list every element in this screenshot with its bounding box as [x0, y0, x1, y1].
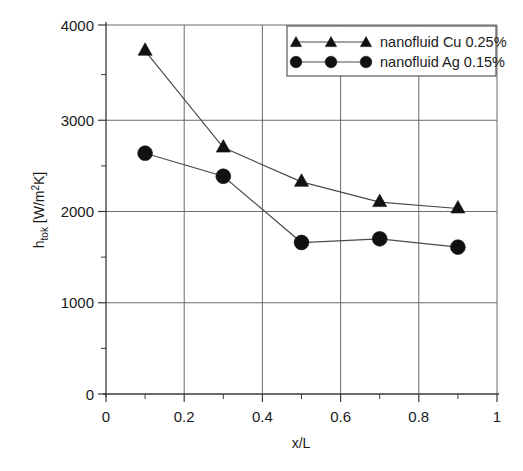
y-tick-label: 1000	[61, 294, 94, 311]
y-axis-major-ticks	[98, 25, 106, 394]
y-axis-tick-labels: 0 1000 2000 3000 4000	[61, 17, 94, 403]
y-axis-title-base: h	[31, 240, 47, 248]
x-tick-label: 1	[493, 408, 501, 425]
circle-marker-icon	[325, 56, 337, 68]
data-point-marker	[216, 169, 231, 184]
y-axis-unit-suffix: K]	[31, 172, 47, 185]
plot-background	[106, 25, 497, 394]
y-tick-label: 2000	[61, 203, 94, 220]
x-axis-tick-labels: 0 0.2 0.4 0.6 0.8 1	[102, 408, 501, 425]
data-point-marker	[138, 146, 153, 161]
x-tick-label: 0.6	[330, 408, 351, 425]
x-tick-label: 0	[102, 408, 110, 425]
y-axis-title-subscript: tok	[39, 226, 50, 240]
y-axis-title: htok [W/m2K]	[30, 172, 50, 248]
data-point-marker	[294, 235, 309, 250]
x-tick-label: 0.2	[174, 408, 195, 425]
y-tick-label: 4000	[61, 17, 94, 34]
x-tick-label: 0.4	[252, 408, 273, 425]
circle-marker-icon	[290, 56, 302, 68]
chart-figure: 0 1000 2000 3000 4000 0 0.2 0.4 0.6 0.8 …	[0, 0, 523, 471]
line-chart: 0 1000 2000 3000 4000 0 0.2 0.4 0.6 0.8 …	[0, 0, 523, 471]
y-tick-label: 0	[86, 386, 94, 403]
data-point-marker	[451, 240, 466, 255]
circle-marker-icon	[360, 56, 372, 68]
chart-legend: nanofluid Cu 0.25% nanofluid Ag 0.15%	[287, 26, 507, 76]
data-point-marker	[372, 231, 387, 246]
legend-label-ag: nanofluid Ag 0.15%	[380, 54, 505, 70]
svg-text:htok [W/m2K]: htok [W/m2K]	[30, 172, 50, 248]
x-tick-label: 0.8	[408, 408, 429, 425]
legend-label-cu: nanofluid Cu 0.25%	[380, 34, 507, 50]
x-axis-minor-ticks	[145, 394, 458, 399]
x-axis-title: x/L	[292, 435, 311, 451]
y-axis-unit-prefix: [W/m	[31, 191, 47, 224]
y-tick-label: 3000	[61, 112, 94, 129]
